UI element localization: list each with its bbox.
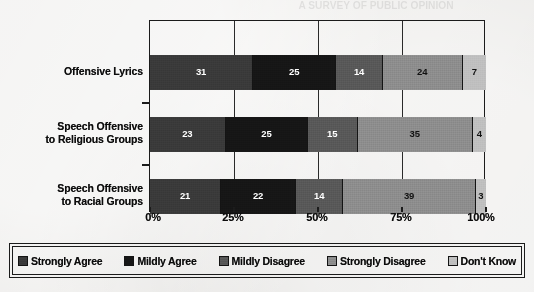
bar-value-label: 25 bbox=[289, 67, 299, 77]
x-tick-label: 25% bbox=[222, 211, 243, 223]
bar-segment: 15 bbox=[308, 117, 357, 152]
chart-legend: Strongly AgreeMildly AgreeMildly Disagre… bbox=[9, 243, 525, 278]
category-label-line: to Racial Groups bbox=[0, 195, 143, 208]
category-label: Offensive Lyrics bbox=[0, 65, 143, 78]
category-label-column: Offensive LyricsSpeech Offensiveto Relig… bbox=[0, 20, 145, 207]
axis-tick-left-2 bbox=[142, 164, 149, 166]
chart-page: A SURVEY OF PUBLIC OPINION Offensive Lyr… bbox=[0, 0, 534, 292]
legend-label: Strongly Disagree bbox=[340, 255, 426, 267]
bar-value-label: 31 bbox=[196, 67, 206, 77]
bar-value-label: 14 bbox=[354, 67, 364, 77]
bar-value-label: 3 bbox=[478, 191, 483, 201]
bar-value-label: 22 bbox=[253, 191, 263, 201]
bar-value-label: 39 bbox=[404, 191, 414, 201]
bar-segment: 23 bbox=[150, 117, 226, 152]
legend-swatch-icon bbox=[124, 256, 134, 266]
bar-value-label: 4 bbox=[477, 129, 482, 139]
category-label-line: Speech Offensive bbox=[0, 120, 143, 133]
bar-value-label: 23 bbox=[182, 129, 192, 139]
legend-label: Mildly Agree bbox=[137, 255, 196, 267]
bar-segment: 31 bbox=[150, 55, 253, 90]
bar-segment: 7 bbox=[463, 55, 486, 90]
legend-swatch-icon bbox=[327, 256, 337, 266]
bar-segment: 14 bbox=[336, 55, 383, 90]
legend-inner-frame: Strongly AgreeMildly AgreeMildly Disagre… bbox=[12, 246, 522, 275]
bar-value-label: 24 bbox=[417, 67, 427, 77]
plot-area: 312514247232515354212214393 bbox=[149, 20, 485, 207]
legend-label: Don't Know bbox=[461, 255, 516, 267]
legend-item[interactable]: Mildly Disagree bbox=[219, 255, 305, 267]
legend-swatch-icon bbox=[448, 256, 458, 266]
category-label-line: Speech Offensive bbox=[0, 182, 143, 195]
x-tick-label: 100% bbox=[467, 211, 494, 223]
bar-segment: 4 bbox=[473, 117, 486, 152]
legend-item[interactable]: Mildly Agree bbox=[124, 255, 196, 267]
legend-item[interactable]: Strongly Agree bbox=[18, 255, 102, 267]
bar-value-label: 21 bbox=[180, 191, 190, 201]
legend-label: Strongly Agree bbox=[31, 255, 102, 267]
bar-row: 312514247 bbox=[150, 55, 486, 90]
bar-value-label: 7 bbox=[472, 67, 477, 77]
category-label-line: Offensive Lyrics bbox=[0, 65, 143, 78]
legend-item[interactable]: Strongly Disagree bbox=[327, 255, 426, 267]
legend-swatch-icon bbox=[18, 256, 28, 266]
x-tick-label: 75% bbox=[390, 211, 411, 223]
bar-value-label: 14 bbox=[314, 191, 324, 201]
x-tick-label: 0% bbox=[145, 211, 161, 223]
category-label: Speech Offensiveto Racial Groups bbox=[0, 182, 143, 208]
legend-item[interactable]: Don't Know bbox=[448, 255, 516, 267]
x-tick-label: 50% bbox=[306, 211, 327, 223]
bar-segment: 35 bbox=[358, 117, 473, 152]
bar-row: 232515354 bbox=[150, 117, 486, 152]
category-label-line: to Religious Groups bbox=[0, 133, 143, 146]
bar-segment: 24 bbox=[383, 55, 463, 90]
scan-bleed-through: A SURVEY OF PUBLIC OPINION bbox=[0, 1, 534, 15]
bar-value-label: 25 bbox=[261, 129, 271, 139]
axis-tick-left-1 bbox=[142, 102, 149, 104]
bar-value-label: 15 bbox=[327, 129, 337, 139]
bleed-text: A SURVEY OF PUBLIC OPINION bbox=[298, 1, 453, 11]
bar-value-label: 35 bbox=[409, 129, 419, 139]
bar-segment: 25 bbox=[226, 117, 308, 152]
bar-segment: 25 bbox=[253, 55, 336, 90]
category-label: Speech Offensiveto Religious Groups bbox=[0, 120, 143, 146]
x-axis-labels: 0%25%50%75%100% bbox=[149, 211, 485, 227]
legend-swatch-icon bbox=[219, 256, 229, 266]
legend-label: Mildly Disagree bbox=[232, 255, 305, 267]
